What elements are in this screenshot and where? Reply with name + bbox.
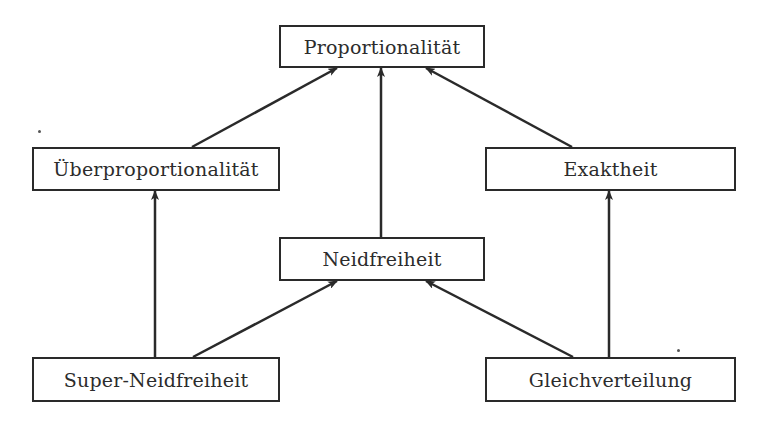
scan-speck bbox=[677, 349, 680, 352]
node-label: Super-Neidfreiheit bbox=[64, 369, 249, 391]
edge-exaktheit-to-proportionalitaet bbox=[426, 68, 572, 147]
node-neidfreiheit: Neidfreiheit bbox=[279, 237, 485, 281]
edge-gleichverteilung-to-neidfreiheit bbox=[426, 281, 573, 357]
node-label: Exaktheit bbox=[563, 158, 657, 180]
node-label: Überproportionalität bbox=[53, 158, 258, 180]
node-proportionalitaet: Proportionalität bbox=[279, 25, 485, 68]
node-exaktheit: Exaktheit bbox=[485, 147, 736, 191]
node-ueberproportionalitaet: Überproportionalität bbox=[32, 147, 280, 191]
node-super-neidfreiheit: Super-Neidfreiheit bbox=[32, 357, 280, 402]
node-gleichverteilung: Gleichverteilung bbox=[485, 357, 736, 402]
node-label: Proportionalität bbox=[304, 36, 461, 58]
node-label: Neidfreiheit bbox=[322, 248, 441, 270]
scan-speck bbox=[38, 130, 41, 133]
edge-ueberproportionalitaet-to-proportionalitaet bbox=[192, 68, 337, 147]
implication-diagram: Proportionalität Überproportionalität Ex… bbox=[0, 0, 765, 423]
node-label: Gleichverteilung bbox=[529, 369, 692, 391]
edge-super_neidfreiheit-to-neidfreiheit bbox=[193, 281, 337, 357]
